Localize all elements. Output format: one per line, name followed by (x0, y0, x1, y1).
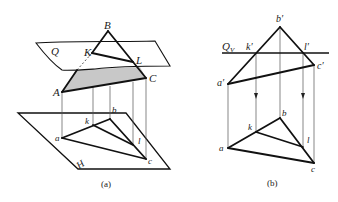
label-a: a (55, 133, 60, 143)
triangle-top-view (228, 118, 314, 163)
label-qv: QV (222, 40, 235, 54)
figure-b: b′ k′ l′ c′ a′ QV a k b l c (b) (217, 13, 329, 188)
label-K: K (83, 46, 92, 58)
label-k: k (85, 116, 90, 126)
label-qv-main: Q (222, 40, 230, 52)
diagram-canvas: B K L A C Q H a k b l c (a) (0, 0, 338, 202)
label-A: A (52, 86, 60, 98)
label-a-prime: a′ (217, 77, 225, 88)
label-k-prime: k′ (246, 41, 253, 52)
label-c-top: c (311, 164, 315, 174)
triangle-front-view (228, 27, 314, 84)
label-L: L (135, 54, 142, 66)
triangle-abc-projection (62, 119, 146, 159)
label-b: b (112, 105, 117, 115)
label-l-top: l (307, 135, 310, 145)
label-b-prime: b′ (276, 13, 284, 24)
label-b-top: b (282, 108, 287, 118)
caption-a: (a) (101, 179, 111, 189)
label-a-top: a (219, 143, 224, 153)
figure-a: B K L A C Q H a k b l c (a) (18, 19, 170, 189)
label-qv-sub: V (230, 46, 235, 54)
label-l-prime: l′ (304, 41, 310, 52)
arrow-down-icon-k (254, 93, 258, 99)
label-c-prime: c′ (317, 60, 324, 71)
label-B: B (104, 19, 111, 31)
label-c: c (148, 156, 152, 166)
caption-b: (b) (267, 178, 278, 188)
label-k-top: k (248, 122, 253, 132)
label-C: C (149, 72, 157, 84)
label-Q: Q (51, 45, 59, 57)
label-l: l (138, 136, 141, 146)
projector-lines-b (228, 27, 314, 163)
arrow-down-icon-l (301, 93, 305, 99)
